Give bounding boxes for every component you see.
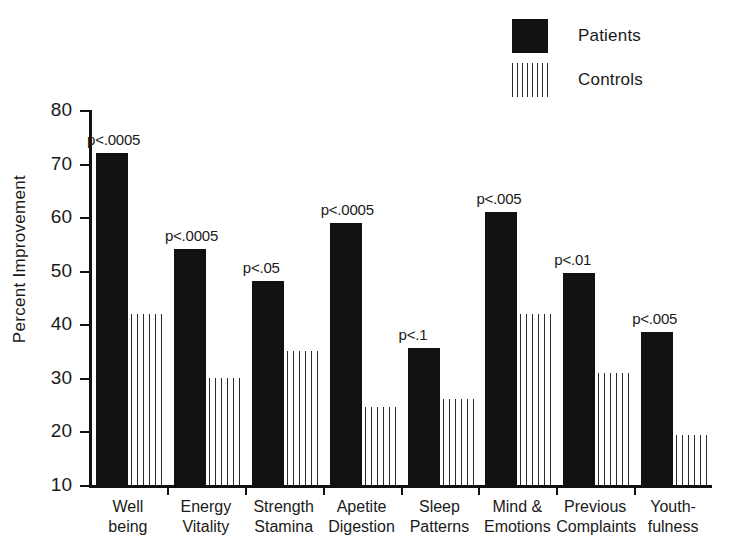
x-category-label-line: Strength bbox=[245, 497, 323, 517]
x-category-label-line: fulness bbox=[634, 517, 712, 537]
x-category-label-line: Sleep bbox=[401, 497, 479, 517]
y-tick-70: 70 bbox=[80, 164, 92, 166]
y-tick-label-20: 20 bbox=[51, 420, 72, 442]
y-tick-label-60: 60 bbox=[51, 206, 72, 228]
legend-label-patients: Patients bbox=[578, 26, 641, 46]
bar-patients-4 bbox=[408, 348, 440, 485]
p-value-label-0: p<.0005 bbox=[87, 131, 140, 148]
p-value-label-5: p<.005 bbox=[476, 190, 521, 207]
x-category-label-line: Complaints bbox=[556, 517, 634, 537]
y-tick-label-70: 70 bbox=[51, 153, 72, 175]
x-category-label-line: Energy bbox=[167, 497, 245, 517]
legend-item-patients: Patients bbox=[512, 14, 722, 58]
y-tick-20: 20 bbox=[80, 431, 92, 433]
x-category-label-3: ApetiteDigestion bbox=[323, 497, 401, 537]
p-value-label-4: p<.1 bbox=[399, 326, 428, 343]
bar-patients-6 bbox=[563, 273, 595, 485]
p-value-label-7: p<.005 bbox=[632, 310, 677, 327]
y-tick-10: 10 bbox=[80, 485, 92, 487]
bar-controls-1 bbox=[209, 378, 241, 485]
legend-label-controls: Controls bbox=[578, 70, 643, 90]
y-axis-title: Percent Improvement bbox=[10, 175, 30, 343]
bar-patients-0 bbox=[96, 153, 128, 485]
bar-patients-1 bbox=[174, 249, 206, 485]
y-tick-label-30: 30 bbox=[51, 367, 72, 389]
y-tick-label-40: 40 bbox=[51, 313, 72, 335]
legend-swatch-controls-icon bbox=[512, 63, 548, 97]
x-tick-3 bbox=[323, 485, 325, 495]
x-category-label-2: StrengthStamina bbox=[245, 497, 323, 537]
bar-chart: Patients Controls Percent Improvement 10… bbox=[0, 0, 731, 549]
y-tick-label-50: 50 bbox=[51, 260, 72, 282]
y-tick-label-10: 10 bbox=[51, 474, 72, 496]
bar-patients-5 bbox=[485, 212, 517, 485]
y-axis-line bbox=[89, 110, 92, 485]
bar-controls-2 bbox=[287, 351, 319, 485]
x-tick-6 bbox=[556, 485, 558, 495]
x-category-label-0: Wellbeing bbox=[89, 497, 167, 537]
x-tick-1 bbox=[167, 485, 169, 495]
y-tick-30: 30 bbox=[80, 378, 92, 380]
bar-controls-0 bbox=[131, 314, 163, 485]
x-category-label-line: Stamina bbox=[245, 517, 323, 537]
x-tick-2 bbox=[245, 485, 247, 495]
y-tick-60: 60 bbox=[80, 217, 92, 219]
bar-controls-3 bbox=[365, 407, 397, 485]
bar-controls-7 bbox=[676, 435, 708, 485]
x-category-label-5: Mind &Emotions bbox=[478, 497, 556, 537]
y-tick-label-80: 80 bbox=[51, 99, 72, 121]
y-tick-50: 50 bbox=[80, 271, 92, 273]
legend-swatch-patients-icon bbox=[512, 19, 548, 53]
y-tick-80: 80 bbox=[80, 110, 92, 112]
x-tick-7 bbox=[634, 485, 636, 495]
x-category-label-line: being bbox=[89, 517, 167, 537]
x-category-label-line: Mind & bbox=[478, 497, 556, 517]
legend-item-controls: Controls bbox=[512, 58, 722, 102]
x-category-label-line: Emotions bbox=[478, 517, 556, 537]
x-category-label-line: Vitality bbox=[167, 517, 245, 537]
p-value-label-6: p<.01 bbox=[554, 251, 591, 268]
bar-patients-7 bbox=[641, 332, 673, 485]
y-tick-40: 40 bbox=[80, 324, 92, 326]
x-category-label-6: PreviousComplaints bbox=[556, 497, 634, 537]
x-category-label-line: Previous bbox=[556, 497, 634, 517]
plot-area: 1020304050607080 p<.0005p<.0005p<.05p<.0… bbox=[89, 110, 712, 485]
chart-legend: Patients Controls bbox=[512, 14, 722, 102]
x-tick-5 bbox=[478, 485, 480, 495]
x-category-label-line: Apetite bbox=[323, 497, 401, 517]
bar-controls-6 bbox=[598, 373, 630, 486]
p-value-label-3: p<.0005 bbox=[321, 201, 374, 218]
p-value-label-2: p<.05 bbox=[243, 259, 280, 276]
x-category-label-line: Patterns bbox=[401, 517, 479, 537]
bar-controls-4 bbox=[443, 399, 475, 485]
bar-patients-2 bbox=[252, 281, 284, 485]
x-category-label-line: Well bbox=[89, 497, 167, 517]
x-category-label-line: Digestion bbox=[323, 517, 401, 537]
x-tick-4 bbox=[401, 485, 403, 495]
x-category-label-line: Youth- bbox=[634, 497, 712, 517]
bar-patients-3 bbox=[330, 223, 362, 486]
x-category-label-4: SleepPatterns bbox=[401, 497, 479, 537]
p-value-label-1: p<.0005 bbox=[165, 227, 218, 244]
x-category-label-1: EnergyVitality bbox=[167, 497, 245, 537]
x-category-label-7: Youth-fulness bbox=[634, 497, 712, 537]
bar-controls-5 bbox=[520, 314, 552, 485]
